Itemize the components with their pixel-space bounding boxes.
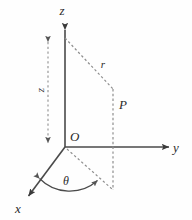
- point-p-label: P: [118, 97, 127, 112]
- theta-label: θ: [63, 174, 69, 188]
- height-label: z: [34, 87, 46, 93]
- origin-label: O: [70, 129, 80, 144]
- figure-canvas: z y x O P r z θ: [0, 0, 192, 220]
- projection-dashed-line: [67, 149, 112, 189]
- cylindrical-coordinates-figure: z y x O P r z θ: [0, 0, 192, 220]
- z-axis-label: z: [58, 3, 64, 18]
- x-axis-label: x: [14, 201, 21, 216]
- y-axis-label: y: [171, 140, 179, 155]
- radius-label: r: [101, 58, 106, 70]
- radius-dashed-line: [65, 38, 113, 89]
- x-axis-line: [29, 147, 66, 196]
